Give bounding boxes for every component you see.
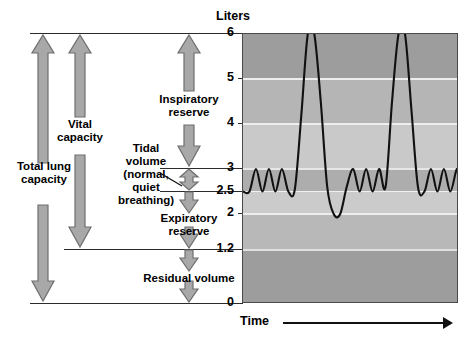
label-expiratory-reserve: Expiratory reserve (140, 212, 238, 238)
x-axis-title: Time (240, 314, 269, 328)
lung-volumes-diagram: 6 5 4 3 2.5 2 1.2 0 Liters Time (0, 0, 468, 338)
spirogram-trace (243, 34, 458, 303)
ytick-label-1_2: 1.2 (203, 241, 234, 255)
ytick-label-5: 5 (208, 70, 234, 84)
ytick-label-2_5: 2.5 (203, 183, 234, 197)
label-inspiratory-reserve: Inspiratory reserve (140, 93, 238, 119)
ytick-label-0: 0 (208, 295, 234, 309)
tick-0 (238, 303, 243, 304)
ytick-label-6: 6 (208, 25, 234, 39)
ytick-label-3: 3 (208, 160, 234, 174)
label-residual-volume: Residual volume (128, 272, 250, 285)
time-arrow-icon (283, 315, 453, 331)
label-vital-capacity: Vital capacity (42, 118, 118, 144)
y-axis-title: Liters (216, 9, 250, 23)
spirogram-plot (242, 33, 458, 303)
